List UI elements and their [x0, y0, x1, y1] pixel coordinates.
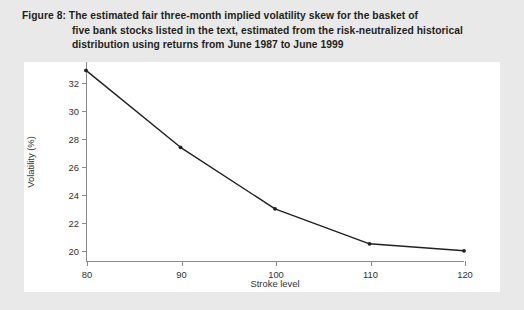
- caption-line-2: five bank stocks listed in the text, est…: [22, 24, 502, 39]
- data-point-marker: [368, 242, 372, 246]
- volatility-skew-markers: [84, 68, 466, 252]
- data-point-marker: [84, 68, 88, 72]
- figure-caption: Figure 8: The estimated fair three-month…: [22, 9, 502, 53]
- data-point-marker: [462, 249, 466, 253]
- plot-panel: Volatility (%) Stroke level 202224262830…: [24, 62, 500, 292]
- volatility-skew-line: [86, 70, 464, 250]
- figure-container: Figure 8: The estimated fair three-month…: [0, 0, 524, 310]
- data-point-marker: [179, 145, 183, 149]
- caption-line-1: Figure 8: The estimated fair three-month…: [22, 9, 502, 24]
- caption-line-3: distribution using returns from June 198…: [22, 38, 502, 53]
- data-point-marker: [273, 207, 277, 211]
- data-series-layer: [24, 62, 500, 292]
